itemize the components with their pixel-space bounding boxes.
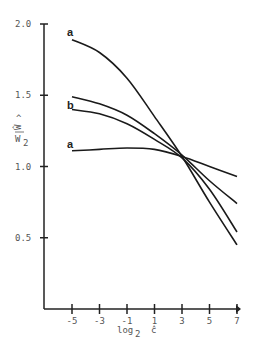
y-label-denominator: W [15, 134, 21, 144]
x-tick-label: 5 [207, 316, 212, 326]
curves [72, 40, 237, 245]
y-tick-label: 2.0 [15, 19, 31, 29]
curve-label-b: b [67, 99, 74, 111]
y-axis-label: ^ Ŵ W 2 [12, 113, 28, 148]
x-label-variable: ĉ [151, 325, 156, 335]
y-label-numerator: Ŵ [12, 124, 23, 130]
hat-glyph: ^ [16, 113, 22, 123]
x-tick-label: 7 [234, 316, 239, 326]
curve-a-upper [72, 40, 237, 245]
x-ticks: -5-3-11357 [67, 304, 240, 326]
curve-label-a-bottom: a [67, 138, 74, 150]
curve-b-lower-middle [72, 110, 237, 233]
y-tick-label: 1.5 [15, 90, 31, 100]
x-tick-label: -5 [67, 316, 78, 326]
curve-label-a-top: a [67, 26, 74, 38]
x-label-subscript: 2 [135, 329, 140, 339]
y-tick-label: 0.5 [15, 233, 31, 243]
x-tick-label: -3 [94, 316, 105, 326]
y-label-subscript: 2 [23, 138, 28, 148]
x-label-log: log [117, 325, 133, 335]
x-tick-label: 3 [179, 316, 184, 326]
x-axis-label: log 2 ĉ [117, 325, 156, 339]
y-tick-label: 1.0 [15, 162, 31, 172]
curve-a-lower [72, 148, 237, 177]
chart: 0.51.01.52.0 -5-3-11357 a b a ^ Ŵ W 2 lo… [0, 0, 257, 362]
